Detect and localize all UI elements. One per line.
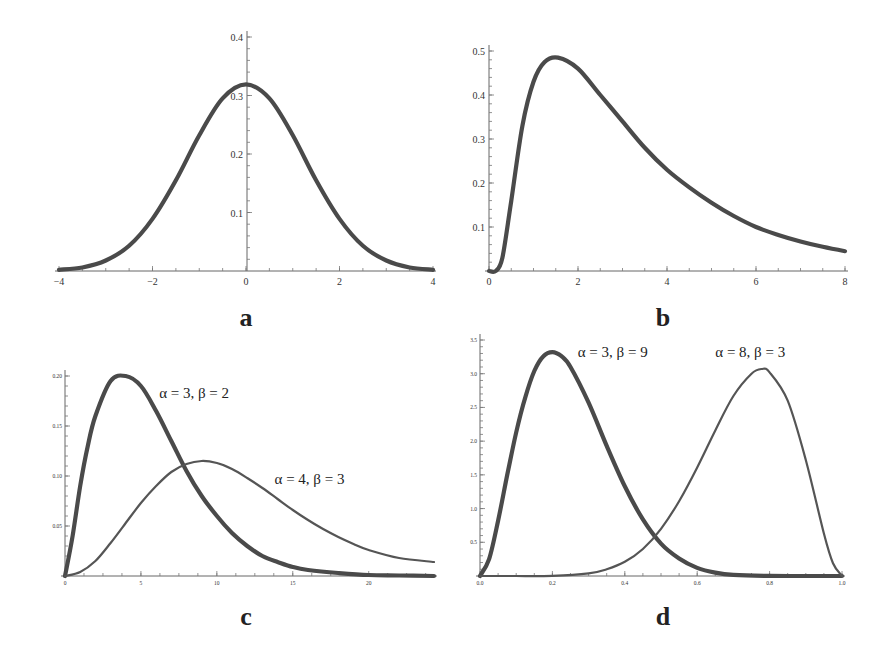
y-tick-label: 0.5	[473, 46, 486, 57]
y-tick-label: 2.0	[470, 438, 477, 444]
series-curve	[480, 352, 842, 576]
y-tick-label: 0.4	[231, 32, 244, 43]
panel-a-chart: −4−20240.10.20.30.4	[54, 31, 436, 287]
y-tick-label: 0.4	[473, 90, 486, 101]
x-tick-label: 6	[754, 276, 759, 287]
curve-annotation: α = 8, β = 3	[715, 344, 785, 360]
x-tick-label: 0	[244, 276, 249, 287]
panel-c-chart: 051015200.050.100.150.20α = 3, β = 2α = …	[52, 370, 437, 586]
series-curve	[489, 57, 845, 272]
y-tick-label: 0.2	[231, 149, 244, 160]
figure: −4−20240.10.20.30.4 024680.10.20.30.40.5…	[0, 0, 892, 660]
panel-label-b: b	[656, 303, 670, 332]
series-curve	[65, 375, 434, 576]
x-tick-label: 1.0	[839, 580, 846, 586]
series-curve	[65, 461, 434, 576]
x-tick-label: 0.8	[766, 580, 773, 586]
x-tick-label: 10	[214, 580, 220, 586]
curve-annotation: α = 3, β = 9	[578, 344, 648, 360]
x-tick-label: 4	[665, 276, 670, 287]
y-tick-label: 0.1	[473, 222, 486, 233]
x-tick-label: 0.2	[549, 580, 556, 586]
y-tick-label: 0.1	[231, 208, 244, 219]
y-tick-label: 0.3	[231, 91, 244, 102]
y-tick-label: 0.10	[52, 473, 62, 479]
x-tick-label: −4	[54, 276, 65, 287]
x-tick-label: 8	[843, 276, 848, 287]
x-tick-label: 2	[337, 276, 342, 287]
x-tick-label: −2	[147, 276, 158, 287]
figure-canvas: −4−20240.10.20.30.4 024680.10.20.30.40.5…	[0, 0, 892, 660]
series-curve	[59, 84, 433, 269]
y-tick-label: 2.5	[470, 404, 477, 410]
x-tick-label: 4	[431, 276, 436, 287]
x-tick-label: 0.4	[621, 580, 628, 586]
y-tick-label: 1.5	[470, 472, 477, 478]
x-tick-label: 20	[366, 580, 372, 586]
y-tick-label: 3.5	[470, 337, 477, 343]
y-tick-label: 0.5	[470, 539, 477, 545]
y-tick-label: 0.2	[473, 178, 486, 189]
x-tick-label: 15	[290, 580, 296, 586]
panel-label-d: d	[656, 602, 671, 631]
x-tick-label: 0.6	[694, 580, 701, 586]
curve-annotation: α = 4, β = 3	[275, 471, 345, 487]
y-tick-label: 0.3	[473, 134, 486, 145]
panel-label-a: a	[240, 303, 253, 332]
curve-annotation: α = 3, β = 2	[159, 385, 229, 401]
y-tick-label: 0.20	[52, 373, 62, 379]
y-tick-label: 1.0	[470, 506, 477, 512]
x-tick-label: 0.0	[477, 580, 484, 586]
y-tick-label: 0.05	[52, 523, 62, 529]
x-tick-label: 5	[140, 580, 143, 586]
y-tick-label: 0.15	[52, 423, 62, 429]
panel-b-chart: 024680.10.20.30.40.5	[473, 45, 849, 287]
y-tick-label: 3.0	[470, 371, 477, 377]
x-tick-label: 0	[64, 580, 67, 586]
panel-d-chart: 0.00.20.40.60.81.00.51.01.52.02.53.03.5α…	[470, 334, 846, 586]
x-tick-label: 2	[576, 276, 581, 287]
panel-label-c: c	[240, 602, 252, 631]
x-tick-label: 0	[487, 276, 492, 287]
